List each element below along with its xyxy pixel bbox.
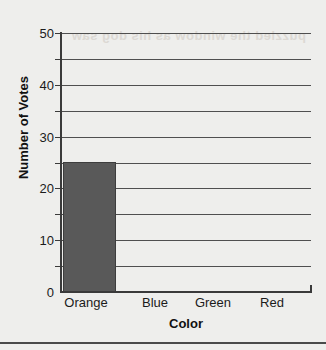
chart-page: puzzled the window as his dog saw 50 40 … xyxy=(0,0,326,350)
x-axis-end-tick xyxy=(310,285,312,293)
x-tick-label-green: Green xyxy=(184,296,242,309)
y-tick-label-20: 20 xyxy=(28,182,54,195)
x-axis-line xyxy=(60,291,312,293)
gridline-40 xyxy=(61,85,311,86)
gridline-35 xyxy=(61,111,311,112)
y-tick-label-40: 40 xyxy=(28,79,54,92)
y-tick-label-30: 30 xyxy=(28,131,54,144)
y-tick-label-10: 10 xyxy=(28,234,54,247)
y-axis-line xyxy=(60,32,62,293)
x-tick-label-blue: Blue xyxy=(130,296,180,309)
y-tick-label-0: 0 xyxy=(28,286,54,299)
page-bottom-rule xyxy=(0,342,326,344)
x-axis-title: Color xyxy=(61,316,311,331)
y-tick-label-50: 50 xyxy=(28,27,54,40)
gridline-45 xyxy=(61,59,311,60)
gridline-30 xyxy=(61,137,311,138)
bar-orange xyxy=(63,162,116,292)
x-tick-label-orange: Orange xyxy=(53,296,119,309)
plot-area xyxy=(61,33,311,292)
gridline-50 xyxy=(61,33,311,34)
x-tick-label-red: Red xyxy=(248,296,296,309)
y-axis-title: Number of Votes xyxy=(16,53,31,203)
